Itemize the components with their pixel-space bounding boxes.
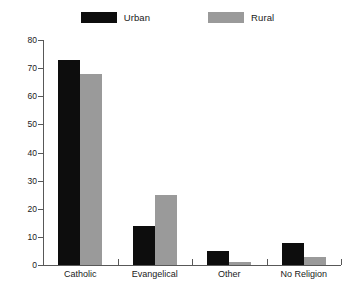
x-axis-tick: [118, 259, 119, 265]
x-axis-label: Other: [192, 270, 267, 279]
bar-rural-evangelical: [155, 195, 177, 265]
y-axis-tick-label: 70: [13, 64, 37, 73]
y-axis-tick: [38, 265, 43, 266]
x-axis-tick: [43, 259, 44, 265]
y-axis-tick: [38, 209, 43, 210]
y-axis-tick: [38, 153, 43, 154]
y-axis-tick-label: 20: [13, 205, 37, 214]
x-axis-label: Evangelical: [118, 270, 193, 279]
y-axis-tick: [38, 124, 43, 125]
y-axis-tick: [38, 237, 43, 238]
x-axis-label: Catholic: [43, 270, 118, 279]
bar-chart: UrbanRural 01020304050607080 CatholicEva…: [0, 0, 355, 295]
y-axis-tick-label: 30: [13, 177, 37, 186]
y-axis-tick: [38, 181, 43, 182]
x-axis-label: No Religion: [267, 270, 342, 279]
bar-rural-no-religion: [304, 257, 326, 265]
y-axis-tick-label: 10: [13, 233, 37, 242]
bar-urban-other: [207, 251, 229, 265]
bar-urban-no-religion: [282, 243, 304, 266]
y-axis-tick: [38, 68, 43, 69]
plot-area: 01020304050607080 CatholicEvangelicalOth…: [0, 0, 355, 295]
y-axis-tick-label: 50: [13, 120, 37, 129]
bar-urban-evangelical: [133, 226, 155, 265]
bar-rural-other: [229, 262, 251, 265]
x-axis-tick: [267, 259, 268, 265]
y-axis-tick-label: 60: [13, 92, 37, 101]
y-axis-line: [43, 40, 44, 266]
bar-urban-catholic: [58, 60, 80, 265]
y-axis-tick-label: 40: [13, 149, 37, 158]
bar-rural-catholic: [80, 74, 102, 265]
y-axis-tick: [38, 96, 43, 97]
x-axis-tick: [192, 259, 193, 265]
y-axis-tick-label: 80: [13, 36, 37, 45]
y-axis-tick-label: 0: [13, 261, 37, 270]
x-axis-line: [43, 265, 341, 266]
y-axis-tick: [38, 40, 43, 41]
x-axis-tick: [341, 259, 342, 265]
